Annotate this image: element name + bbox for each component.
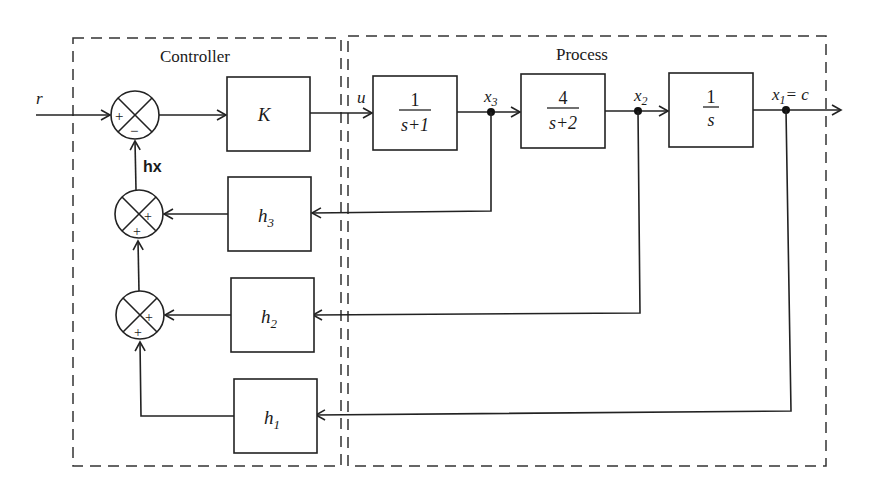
h1-output-arrow [140, 342, 234, 416]
hx-arrow [135, 141, 136, 190]
minus-sign: − [130, 123, 138, 139]
g3-denominator: s [707, 110, 714, 130]
gain-block: K [227, 77, 310, 151]
summing-junction-h3: + + [115, 190, 163, 239]
sum-h2-to-h3-arrow [138, 241, 139, 291]
x3-label: x3 [483, 87, 498, 109]
plus-sign: + [133, 224, 141, 239]
h1-block: h1 [234, 379, 317, 453]
g1-denominator: s+1 [401, 115, 429, 135]
block-diagram: Controller Process r + − K u 1 s+1 x3 4 … [0, 0, 876, 492]
h3-block: h3 [228, 177, 311, 251]
x2-label: x2 [633, 86, 648, 108]
process-block-3: 1 s [669, 73, 753, 147]
plus-sign: + [144, 209, 152, 224]
process-block-1: 1 s+1 [373, 76, 457, 150]
h2-block: h2 [231, 278, 314, 352]
control-signal-label: u [357, 88, 366, 107]
summing-junction-h2: + + [116, 291, 164, 340]
process-block-2: 4 s+2 [521, 74, 605, 148]
plus-sign: + [115, 108, 123, 124]
plus-sign: + [145, 310, 153, 325]
x1-label: x1= c [771, 85, 809, 107]
gain-label: K [257, 104, 272, 125]
g1-numerator: 1 [411, 90, 420, 110]
plus-sign: + [134, 325, 142, 340]
g2-denominator: s+2 [549, 113, 577, 133]
reference-label: r [36, 89, 43, 108]
hx-label: hx [143, 158, 162, 175]
main-summing-junction: + − [111, 91, 159, 139]
x1-feedback-line [316, 110, 791, 415]
g2-numerator: 4 [559, 88, 568, 108]
process-label: Process [556, 45, 608, 64]
g3-numerator: 1 [707, 87, 716, 107]
controller-label: Controller [160, 47, 230, 66]
